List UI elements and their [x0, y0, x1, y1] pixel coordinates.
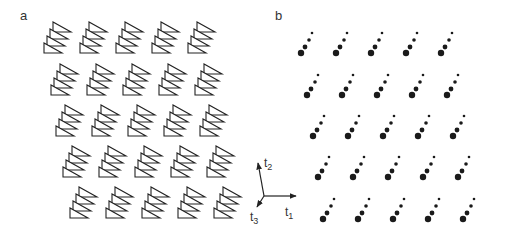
- dot-icon: [359, 162, 363, 166]
- triangle-icon: [125, 22, 143, 32]
- panel-a-triangle-lattice: [44, 22, 241, 218]
- triangle-stack: [142, 187, 169, 218]
- dot-icon: [387, 74, 390, 77]
- triangle-stack: [188, 22, 215, 53]
- triangle-icon: [72, 146, 90, 156]
- t3-arrow-icon: [257, 196, 264, 207]
- dot-icon: [457, 74, 460, 77]
- dot-icon: [451, 32, 454, 35]
- triangle-icon: [173, 105, 191, 115]
- dot-icon: [311, 32, 314, 35]
- triangle-stack: [80, 22, 107, 53]
- triangle-icon: [89, 22, 107, 32]
- dot-icon: [368, 50, 374, 56]
- dot-icon: [394, 162, 398, 166]
- triangle-stack: [63, 146, 90, 177]
- triangle-icon: [216, 146, 234, 156]
- triangle-stack: [116, 22, 143, 53]
- dot-icon: [381, 32, 384, 35]
- dot-icon: [409, 92, 415, 98]
- dot-icon: [304, 92, 310, 98]
- dot-icon: [434, 204, 438, 208]
- triangle-icon: [180, 146, 198, 156]
- triangle-icon: [79, 187, 97, 197]
- dot-icon: [418, 80, 422, 84]
- triangle-icon: [108, 146, 126, 156]
- dot-icon: [390, 216, 396, 222]
- triangle-icon: [151, 187, 169, 197]
- triangle-icon: [65, 105, 83, 115]
- triangle-stack: [70, 187, 97, 218]
- dot-icon: [307, 38, 311, 42]
- dot-icon: [310, 133, 316, 139]
- triangle-icon: [144, 146, 162, 156]
- dot-icon: [438, 198, 441, 201]
- dot-icon: [354, 121, 358, 125]
- triangle-stack: [87, 64, 114, 95]
- dot-icon: [459, 121, 463, 125]
- triangle-stack: [164, 105, 191, 136]
- dot-icon: [398, 156, 401, 159]
- triangle-stack: [171, 146, 198, 177]
- dot-icon: [416, 32, 419, 35]
- dot-icon: [313, 80, 317, 84]
- triangle-stack: [99, 146, 126, 177]
- dot-icon: [320, 169, 325, 174]
- triangle-stack: [56, 105, 83, 136]
- dot-icon: [455, 174, 461, 180]
- triangle-icon: [197, 22, 215, 32]
- dot-icon: [420, 128, 425, 133]
- dot-icon: [383, 80, 387, 84]
- dot-icon: [422, 74, 425, 77]
- dot-icon: [315, 174, 321, 180]
- dot-icon: [385, 174, 391, 180]
- dot-icon: [450, 133, 456, 139]
- dot-icon: [346, 32, 349, 35]
- dot-icon: [373, 45, 378, 50]
- triangle-icon: [187, 187, 205, 197]
- dot-icon: [393, 115, 396, 118]
- dot-icon: [425, 169, 430, 174]
- t2-label: t2: [264, 156, 272, 172]
- dot-icon: [345, 133, 351, 139]
- dot-icon: [428, 115, 431, 118]
- triangle-icon: [168, 64, 186, 74]
- triangle-stack: [128, 105, 155, 136]
- t1-label: t1: [285, 205, 293, 221]
- dot-icon: [350, 174, 356, 180]
- dot-icon: [379, 87, 384, 92]
- dot-icon: [358, 115, 361, 118]
- dot-icon: [424, 121, 428, 125]
- triangle-stack: [51, 64, 78, 95]
- dot-icon: [309, 87, 314, 92]
- dot-icon: [355, 169, 360, 174]
- dot-icon: [380, 133, 386, 139]
- triangle-stack: [152, 22, 179, 53]
- lattice-vectors: t1 t2 t3: [250, 156, 296, 226]
- dot-icon: [469, 204, 473, 208]
- dot-icon: [385, 128, 390, 133]
- dot-icon: [453, 80, 457, 84]
- triangle-stack: [106, 187, 133, 218]
- dot-icon: [319, 121, 323, 125]
- dot-icon: [352, 74, 355, 77]
- dot-icon: [468, 156, 471, 159]
- dot-icon: [403, 198, 406, 201]
- dot-icon: [342, 38, 346, 42]
- panel-b-dot-lattice: [298, 32, 476, 223]
- dot-icon: [348, 80, 352, 84]
- dot-icon: [415, 133, 421, 139]
- dot-icon: [325, 211, 330, 216]
- triangle-icon: [223, 187, 241, 197]
- triangle-stack: [178, 187, 205, 218]
- dot-icon: [360, 211, 365, 216]
- dot-icon: [408, 45, 413, 50]
- dot-icon: [390, 169, 395, 174]
- dot-icon: [377, 38, 381, 42]
- dot-icon: [350, 128, 355, 133]
- dot-icon: [433, 156, 436, 159]
- dot-icon: [447, 38, 451, 42]
- dot-icon: [449, 87, 454, 92]
- dot-icon: [355, 216, 361, 222]
- dot-icon: [444, 92, 450, 98]
